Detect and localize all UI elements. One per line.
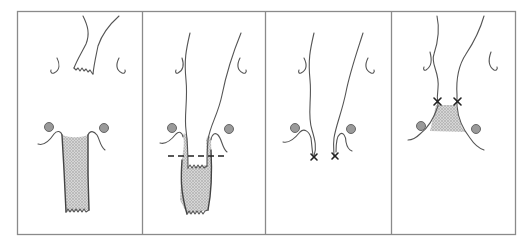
- right-ovary-icon: [225, 125, 234, 134]
- panel-1: [38, 16, 125, 212]
- left-hook-icon: [51, 58, 59, 73]
- procedure-diagram: [0, 0, 531, 248]
- right-tube: [336, 133, 352, 152]
- right-x-marker-icon: [332, 153, 338, 159]
- right-ovary-icon: [472, 125, 481, 134]
- left-limb: [309, 33, 315, 156]
- left-tube: [283, 130, 313, 155]
- left-tube: [160, 132, 183, 143]
- left-ovary-icon: [417, 122, 426, 131]
- upper-segment: [74, 16, 119, 74]
- right-hook-icon: [489, 52, 497, 70]
- panel-3: [283, 33, 374, 160]
- panel-4: [408, 16, 497, 150]
- left-hook-icon: [424, 52, 432, 70]
- left-ovary-icon: [168, 124, 177, 133]
- right-hook-icon: [117, 58, 125, 73]
- panel-2: [160, 33, 246, 214]
- upper-tube-inserted: [185, 33, 241, 168]
- left-ovary-icon: [291, 124, 300, 133]
- left-tube: [38, 131, 62, 144]
- left-hook-icon: [176, 58, 184, 73]
- right-ovary-icon: [347, 125, 356, 134]
- left-hook-icon: [299, 58, 306, 73]
- right-tube: [88, 132, 105, 150]
- right-hook-icon: [366, 58, 374, 73]
- right-ovary-icon: [100, 124, 109, 133]
- right-tube: [211, 134, 227, 152]
- left-ovary-icon: [45, 123, 54, 132]
- lower-shaded-segment: [62, 135, 89, 212]
- right-hook-icon: [238, 58, 246, 73]
